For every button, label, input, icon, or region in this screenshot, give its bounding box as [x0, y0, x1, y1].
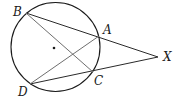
label-x: X: [162, 50, 172, 64]
secant-bx: [26, 13, 158, 57]
label-a: A: [102, 23, 112, 37]
label-b: B: [12, 5, 22, 19]
label-c: C: [94, 74, 103, 88]
geometry-diagram: B A C D X: [0, 0, 178, 100]
label-d: D: [17, 85, 28, 99]
center-point: [53, 47, 56, 50]
